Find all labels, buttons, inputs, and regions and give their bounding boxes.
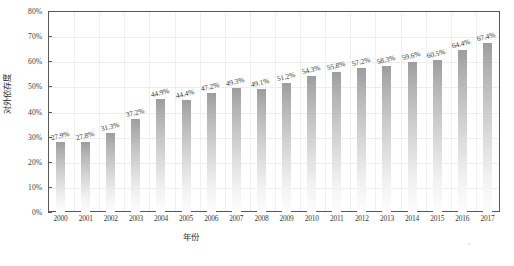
x-axis-tick-label: 2014 [400,214,425,228]
y-axis-tick-mark [48,86,52,87]
x-axis-title: 年份 [0,230,514,242]
x-axis-tick-label: 2005 [174,214,199,228]
x-axis-tick-label: 2010 [299,214,324,228]
y-axis-tick-mark [48,61,52,62]
data-label: 49.1% [250,76,270,89]
y-axis-tick-label: 60% [28,57,42,66]
x-axis-tick-label: 2001 [73,214,98,228]
y-axis-tick-mark [48,162,52,163]
data-label: 37.2% [125,106,145,119]
x-axis-tick-label: 2008 [249,214,274,228]
bar-chart: 0%10%20%30%40%50%60%70%80% 27.9%27.8%31.… [0,0,514,266]
data-label: 54.3% [300,63,320,76]
data-label: 51.2% [275,70,295,83]
y-axis-tick-mark [48,212,52,213]
data-labels-container: 27.9%27.8%31.3%37.2%44.9%44.4%47.2%49.3%… [48,11,500,212]
data-label: 49.3% [225,75,245,88]
x-axis-ticks: 2000200120022003200420052006200720082009… [48,214,500,228]
y-axis-tick-mark [48,137,52,138]
data-label: 27.9% [49,129,69,142]
x-axis-tick-label: 2004 [148,214,173,228]
data-label: 58.3% [376,53,396,66]
x-axis-tick-label: 2012 [349,214,374,228]
y-axis-title: 对外依存度 [0,54,12,134]
y-axis-tick-label: 40% [28,107,42,116]
y-axis-tick-label: 50% [28,82,42,91]
data-label: 44.4% [175,87,195,100]
x-axis-tick-label: 2006 [199,214,224,228]
y-axis-tick-label: 80% [28,7,42,16]
x-axis-tick-label: 2003 [123,214,148,228]
data-label: 55.8% [326,59,346,72]
x-axis-tick-label: 2013 [374,214,399,228]
x-axis-tick-label: 2015 [425,214,450,228]
data-label: 44.9% [150,86,170,99]
x-axis-tick-label: 2017 [475,214,500,228]
y-axis-tick-label: 70% [28,32,42,41]
x-axis-tick-label: 2007 [224,214,249,228]
data-label: 60.5% [426,47,446,60]
y-axis-tick-label: 30% [28,132,42,141]
x-axis-tick-label: 2009 [274,214,299,228]
data-label: 67.4% [476,30,496,43]
y-axis-tick-label: 0% [32,208,42,217]
x-axis-tick-label: 2016 [450,214,475,228]
x-axis-tick-label: 2002 [98,214,123,228]
y-axis-tick-mark [48,11,52,12]
artifact-dot [468,243,470,245]
x-axis-tick-label: 2000 [48,214,73,228]
data-label: 47.2% [200,80,220,93]
y-axis-tick-label: 10% [28,182,42,191]
y-axis-tick-mark [48,187,52,188]
y-axis-tick-label: 20% [28,157,42,166]
data-label: 59.6% [401,49,421,62]
data-label: 57.2% [351,55,371,68]
y-axis-tick-mark [48,112,52,113]
x-axis-title-text: 年份 [183,232,199,242]
data-label: 31.3% [100,120,120,133]
data-label: 64.4% [451,37,471,50]
data-label: 27.8% [74,129,94,142]
y-axis-tick-mark [48,36,52,37]
x-axis-tick-label: 2011 [324,214,349,228]
